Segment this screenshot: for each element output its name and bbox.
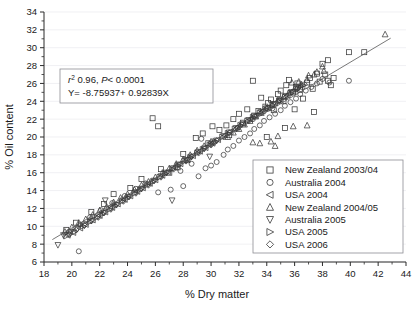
data-point [252,126,257,131]
data-point [217,127,222,132]
data-point [257,140,263,146]
x-tick-label: 44 [401,268,412,279]
data-point [326,58,331,63]
data-point [259,95,264,100]
data-point [288,100,293,105]
y-tick-label: 6 [32,256,37,267]
data-point [278,108,283,113]
data-point [282,126,287,131]
data-point [250,78,255,83]
x-axis-title: % Dry matter [185,288,250,300]
x-tick-label: 30 [206,268,217,279]
x-tick-label: 42 [373,268,384,279]
data-point [209,163,214,168]
y-tick-label: 28 [26,60,37,71]
data-point [214,160,219,165]
y-tick-label: 12 [26,203,37,214]
legend-item-label: USA 2005 [285,226,328,237]
x-tick-label: 26 [150,268,161,279]
data-point [346,50,351,55]
chart-canvas: 6810121416182022242628303234182022242628… [0,0,413,311]
data-point [55,243,61,249]
data-point [248,131,253,136]
scatter-chart: 6810121416182022242628303234182022242628… [0,0,413,311]
data-point [128,185,133,190]
legend-item-label: USA 2004 [285,189,328,200]
data-point [169,198,175,204]
data-point [382,31,388,37]
y-tick-label: 20 [26,131,37,142]
x-tick-label: 34 [261,268,272,279]
x-tick-label: 38 [317,268,328,279]
y-tick-label: 22 [26,114,37,125]
data-point [102,198,108,204]
y-axis-title: % Oil content [3,104,15,169]
data-point [76,249,81,254]
x-tick-label: 28 [178,268,189,279]
data-point [181,184,186,189]
data-point [312,110,317,115]
y-tick-label: 32 [26,24,37,35]
legend-item-label: New Zealand 2003/04 [285,164,378,175]
data-point [111,192,116,197]
legend-item-label: Australia 2004 [285,177,346,188]
y-tick-label: 26 [26,78,37,89]
data-point [273,111,278,116]
data-point [290,123,296,129]
data-point [257,123,262,128]
data-point [210,124,215,129]
data-point [292,107,297,112]
data-point [304,122,310,128]
data-point [236,138,241,143]
y-tick-label: 24 [26,96,37,107]
data-point [196,174,201,179]
annotation-line-1: r2 0.96, P< 0.0001 [68,73,145,85]
y-tick-label: 34 [26,6,37,17]
y-tick-label: 14 [26,185,37,196]
x-tick-label: 18 [39,268,50,279]
data-point [156,124,161,129]
data-point [250,139,256,145]
x-tick-label: 32 [234,268,245,279]
data-point [225,147,230,152]
legend-item-label: New Zealand 2004/05 [285,202,378,213]
annotation-r-value: 0.96, [75,74,101,85]
legend-item-label: Australia 2005 [285,214,346,225]
x-tick-label: 22 [94,268,105,279]
data-point [200,131,205,136]
data-point [193,135,198,140]
data-point [139,176,144,181]
y-tick-label: 16 [26,167,37,178]
y-tick-label: 10 [26,221,37,232]
data-point [203,166,208,171]
data-point [224,123,229,128]
annotation-p-value: < 0.0001 [108,74,145,85]
data-point [275,133,281,139]
annotation-line-2: Y= -8.75937+ 0.92839X [68,87,170,98]
data-point [168,187,173,192]
y-tick-label: 30 [26,42,37,53]
data-point [346,78,351,83]
data-point [150,116,155,121]
data-point [231,143,236,148]
legend-item-label: USA 2006 [285,239,328,250]
data-point [236,111,241,116]
x-tick-label: 40 [345,268,356,279]
data-point [306,72,312,78]
data-point [245,107,250,112]
y-tick-label: 18 [26,149,37,160]
x-tick-label: 24 [122,268,133,279]
x-tick-label: 36 [289,268,300,279]
data-point [294,96,299,101]
data-point [300,96,305,101]
y-tick-label: 8 [32,239,37,250]
data-point [331,76,336,81]
x-tick-label: 20 [67,268,78,279]
